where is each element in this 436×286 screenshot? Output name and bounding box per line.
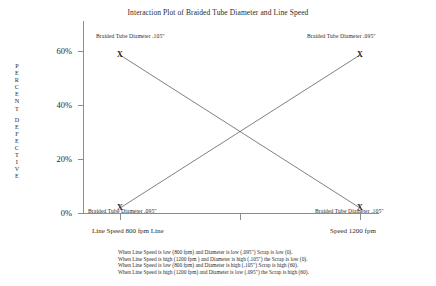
interaction-plot-figure: Interaction Plot of Braided Tube Diamete… (0, 0, 436, 286)
series-label-095-bottom-left: Braided Tube Diameter .095" (88, 208, 157, 214)
data-point-marker-095-high-speed: X (357, 51, 363, 59)
data-point-marker-105-low-speed: X (117, 51, 123, 59)
series-label-105-bottom-right: Braided Tube Diameter .105" (315, 208, 384, 214)
footnote-line-2: When Line Speed is high (1200 fpm ) and … (118, 256, 309, 263)
footnote-block: When Line Speed is low (800 fpm) and Dia… (118, 249, 309, 275)
footnote-line-3: When Line Speed is low (800 fpm) and Dia… (118, 262, 309, 269)
footnote-line-4: When Line Speed is high (1200 fpm) and D… (118, 269, 309, 276)
interaction-lines (0, 0, 436, 286)
x-axis-label-left: Line Speed 800 fpm Line (92, 227, 164, 235)
series-label-105-top-left: Braided Tube Diameter .105" (96, 33, 165, 39)
footnote-line-1: When Line Speed is low (800 fpm) and Dia… (118, 249, 309, 256)
x-axis-label-right: Speed 1200 fpm (330, 227, 376, 235)
series-label-095-top-right: Braided Tube Diameter .095" (307, 33, 376, 39)
